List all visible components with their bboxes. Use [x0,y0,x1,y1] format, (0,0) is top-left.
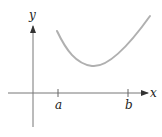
tick-label-b: b [125,98,133,112]
x-axis-label: x [150,86,157,100]
function-curve [57,16,150,66]
function-graph-diagram: y x a b [0,0,162,137]
tick-label-a: a [55,98,62,112]
y-axis-label: y [28,8,36,22]
